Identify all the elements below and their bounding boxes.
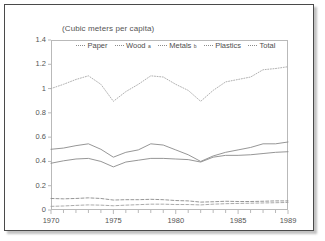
figure-canvas: (Cubic meters per capita) Paper Wooda Me… [0, 0, 325, 241]
legend-swatch-wood-icon [115, 45, 124, 46]
legend-footnote-metals: b [194, 43, 197, 49]
legend-label-metals: Metals [169, 41, 191, 50]
legend-item-plastics[interactable]: Plastics [204, 41, 241, 50]
y-tick-label: 1 [24, 84, 46, 93]
y-tick-label: 0 [24, 205, 46, 214]
legend-item-paper[interactable]: Paper [76, 41, 108, 50]
legend-swatch-total-icon [248, 45, 257, 46]
legend-item-wood[interactable]: Wooda [115, 41, 151, 50]
legend-label-wood: Wood [126, 41, 145, 50]
legend-label-plastics: Plastics [215, 41, 241, 50]
plot-area [51, 40, 288, 210]
legend-label-paper: Paper [88, 41, 108, 50]
y-tick-label: 1.2 [24, 59, 46, 68]
x-tick-label: 1989 [271, 216, 305, 225]
x-tick-label: 1975 [96, 216, 130, 225]
chart-legend: Paper Wooda Metalsb Plastics Total [76, 41, 275, 50]
y-tick-label: 0.2 [24, 181, 46, 190]
x-tick-label: 1970 [34, 216, 68, 225]
chart-subtitle: (Cubic meters per capita) [62, 24, 154, 33]
y-tick-label: 0.8 [24, 108, 46, 117]
plot-wrapper: (Cubic meters per capita) Paper Wooda Me… [0, 0, 325, 241]
legend-swatch-metals-icon [158, 45, 167, 46]
y-tick-label: 0.6 [24, 132, 46, 141]
y-tick-label: 0.4 [24, 156, 46, 165]
legend-label-total: Total [259, 41, 275, 50]
legend-swatch-plastics-icon [204, 45, 213, 46]
y-tick-label: 1.4 [24, 35, 46, 44]
legend-footnote-wood: a [148, 43, 151, 49]
x-tick-label: 1980 [159, 216, 193, 225]
legend-swatch-paper-icon [76, 45, 85, 46]
legend-item-metals[interactable]: Metalsb [158, 41, 197, 50]
legend-item-total[interactable]: Total [248, 41, 275, 50]
x-tick-label: 1985 [221, 216, 255, 225]
